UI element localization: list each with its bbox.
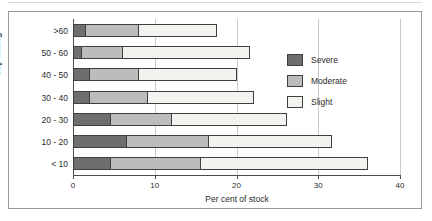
bar-segment-slight [122, 46, 250, 59]
legend-label: Severe [311, 55, 338, 66]
y-category-label: < 10 [51, 159, 68, 169]
x-tick-mark [318, 175, 319, 179]
y-category-label: >60 [54, 26, 68, 36]
x-tick-mark [155, 175, 156, 179]
legend-swatch-moderate [287, 75, 303, 87]
bar-segment-slight [147, 91, 254, 104]
x-tick-mark [400, 175, 401, 179]
x-tick-mark [73, 175, 74, 179]
bar-segment-slight [200, 157, 369, 170]
y-category-label: 50 - 60 [42, 48, 68, 58]
bar-segment-slight [138, 68, 237, 81]
x-tick-label: 20 [232, 181, 241, 191]
bar-segment-slight [208, 135, 332, 148]
bar-segment-severe [73, 91, 90, 104]
bar-segment-moderate [85, 24, 139, 37]
legend-label: Moderate [311, 76, 347, 87]
x-tick-mark [237, 175, 238, 179]
y-category-label: 40 - 50 [42, 70, 68, 80]
bar-segment-moderate [81, 46, 123, 59]
bar-segment-slight [138, 24, 217, 37]
x-tick-label: 0 [71, 181, 75, 191]
y-category-label: 20 - 30 [42, 115, 68, 125]
y-category-label: 30 - 40 [42, 93, 68, 103]
bar-segment-moderate [126, 135, 209, 148]
bar-segment-severe [73, 24, 86, 37]
x-tick-label: 30 [314, 181, 323, 191]
bar-segment-moderate [110, 113, 172, 126]
bar-segment-severe [73, 68, 90, 81]
top-rule [8, 2, 422, 3]
bar-segment-severe [73, 113, 111, 126]
x-tick-label: 10 [150, 181, 159, 191]
legend-label: Slight [311, 97, 332, 108]
legend-swatch-severe [287, 54, 303, 66]
x-tick-label: 40 [396, 181, 405, 191]
bar-segment-slight [171, 113, 286, 126]
chart-figure: 010203040 >6050 - 6040 - 5030 - 4020 - 3… [0, 0, 432, 221]
y-category-label: 10 - 20 [42, 137, 68, 147]
bar-segment-severe [73, 135, 127, 148]
bar-segment-moderate [89, 91, 147, 104]
figure-frame [8, 11, 422, 209]
bar-segment-moderate [110, 157, 201, 170]
bar-segment-moderate [89, 68, 139, 81]
bar-segment-severe [73, 157, 111, 170]
bar-segment-severe [73, 46, 82, 59]
y-axis-title: Sap rating [0, 32, 2, 76]
legend-swatch-slight [287, 96, 303, 108]
x-axis-title: Per cent of stock [205, 194, 268, 204]
